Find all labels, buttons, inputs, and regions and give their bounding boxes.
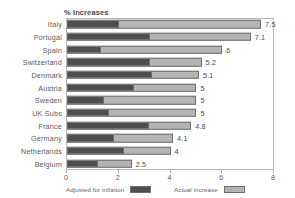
bar-segment-adjusted-for-inflation <box>68 46 101 53</box>
category-label: Netherlands <box>0 146 62 155</box>
bar-row: Italy7.5 <box>0 18 295 31</box>
bar-segment-adjusted-for-inflation <box>68 122 149 129</box>
category-label: Spain <box>0 45 62 54</box>
legend-swatch <box>224 186 245 193</box>
bar-segment-actual-increase <box>67 45 222 54</box>
bar-value-label: 5.2 <box>206 58 217 67</box>
bar-row: Germany4.1 <box>0 132 295 145</box>
bar-segment-adjusted-for-inflation <box>68 97 104 104</box>
category-label: Belgium <box>0 159 62 168</box>
bar-segment-actual-increase <box>67 20 261 29</box>
bar-chart: % Increases Italy7.5Portugal7.1Spain6Swi… <box>0 0 295 198</box>
bar-row: Spain6 <box>0 43 295 56</box>
category-label: Italy <box>0 20 62 29</box>
bar-value-label: 5 <box>200 83 204 92</box>
category-label: Sweden <box>0 96 62 105</box>
chart-title: % Increases <box>64 8 108 17</box>
x-tick-label: 2 <box>116 173 120 182</box>
legend-entry: Adjusted for inflation <box>66 184 151 195</box>
bar-row: Portugal7.1 <box>0 31 295 44</box>
legend-label: Adjusted for inflation <box>66 186 124 193</box>
bar-value-label: 5 <box>200 108 204 117</box>
bar-row: France4.8 <box>0 119 295 132</box>
bar-value-label: 4.1 <box>177 134 188 143</box>
stacked-bar <box>67 159 132 168</box>
category-label: UK Subs <box>0 108 62 117</box>
stacked-bar <box>67 45 222 54</box>
bar-segment-adjusted-for-inflation <box>68 59 150 66</box>
category-label: Austria <box>0 83 62 92</box>
bar-value-label: 6 <box>226 45 230 54</box>
category-label: Germany <box>0 134 62 143</box>
x-tick-label: 4 <box>168 173 172 182</box>
bar-segment-actual-increase <box>67 134 173 143</box>
legend-label: Actual increase <box>174 186 218 193</box>
chart-legend: Adjusted for inflationActual increase <box>66 184 286 195</box>
bar-row: Switzerland5.2 <box>0 56 295 69</box>
bar-row: Denmark5.1 <box>0 69 295 82</box>
bar-segment-adjusted-for-inflation <box>68 72 152 79</box>
bar-segment-actual-increase <box>67 71 199 80</box>
bar-segment-adjusted-for-inflation <box>68 148 124 155</box>
bar-value-label: 4 <box>175 146 179 155</box>
stacked-bar <box>67 20 261 29</box>
bar-segment-adjusted-for-inflation <box>68 84 134 91</box>
legend-swatch <box>130 186 151 193</box>
bar-row: Belgium2.5 <box>0 157 295 170</box>
x-tick-label: 6 <box>219 173 223 182</box>
stacked-bar <box>67 121 191 130</box>
category-label: Portugal <box>0 32 62 41</box>
stacked-bar <box>67 58 202 67</box>
bar-row: Austria5 <box>0 81 295 94</box>
bar-segment-actual-increase <box>67 109 196 118</box>
bar-segment-adjusted-for-inflation <box>68 110 109 117</box>
bar-segment-actual-increase <box>67 96 196 105</box>
bar-value-label: 7.1 <box>255 32 266 41</box>
stacked-bar <box>67 147 171 156</box>
bar-segment-actual-increase <box>67 33 251 42</box>
bar-segment-adjusted-for-inflation <box>68 21 119 28</box>
stacked-bar <box>67 83 196 92</box>
x-tick-label: 0 <box>64 173 68 182</box>
stacked-bar <box>67 96 196 105</box>
bar-row: Sweden5 <box>0 94 295 107</box>
bar-segment-adjusted-for-inflation <box>68 160 98 167</box>
stacked-bar <box>67 134 173 143</box>
bar-value-label: 7.5 <box>265 20 276 29</box>
bar-value-label: 4.8 <box>195 121 206 130</box>
bar-segment-actual-increase <box>67 83 196 92</box>
bar-segment-adjusted-for-inflation <box>68 135 114 142</box>
category-label: Switzerland <box>0 58 62 67</box>
bar-segment-adjusted-for-inflation <box>68 34 150 41</box>
x-tick-label: 8 <box>271 173 275 182</box>
bar-value-label: 5.1 <box>203 70 214 79</box>
category-label: Denmark <box>0 70 62 79</box>
bar-segment-actual-increase <box>67 147 171 156</box>
bar-segment-actual-increase <box>67 159 132 168</box>
stacked-bar <box>67 109 196 118</box>
bar-value-label: 2.5 <box>136 159 147 168</box>
stacked-bar <box>67 33 251 42</box>
stacked-bar <box>67 71 199 80</box>
bar-row: UK Subs5 <box>0 107 295 120</box>
bar-segment-actual-increase <box>67 58 202 67</box>
category-label: France <box>0 121 62 130</box>
bar-rows: Italy7.5Portugal7.1Spain6Switzerland5.2D… <box>0 18 295 170</box>
legend-entry: Actual increase <box>174 184 245 195</box>
bar-row: Netherlands4 <box>0 145 295 158</box>
bar-value-label: 5 <box>200 96 204 105</box>
bar-segment-actual-increase <box>67 121 191 130</box>
x-axis: 02468 <box>66 170 274 184</box>
